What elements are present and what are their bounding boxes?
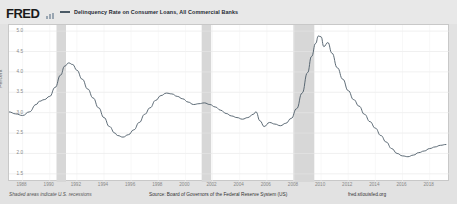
- legend-swatch: [60, 11, 70, 13]
- y-tick-label: 2.5: [17, 130, 23, 135]
- x-tick-label: 1990: [44, 182, 54, 187]
- recession-band: [293, 25, 314, 182]
- recession-band: [56, 25, 65, 182]
- x-tick-label: 2004: [234, 182, 244, 187]
- fred-url[interactable]: fred.stlouisfed.org: [348, 192, 386, 197]
- x-tick-label: 1998: [152, 182, 162, 187]
- x-tick-label: 2018: [424, 182, 434, 187]
- chart-header: FRED Delinquency Rate on Consumer Loans,…: [0, 0, 457, 24]
- x-tick-label: 2008: [288, 182, 298, 187]
- chart-svg: [9, 25, 450, 182]
- chart-legend: Delinquency Rate on Consumer Loans, All …: [60, 9, 238, 15]
- x-tick-label: 2016: [396, 182, 406, 187]
- source-note: Source: Board of Governors of the Federa…: [149, 192, 287, 197]
- legend-label: Delinquency Rate on Consumer Loans, All …: [74, 9, 238, 15]
- series-line: [9, 36, 446, 157]
- chart-plot-frame: [8, 24, 449, 181]
- x-tick-label: 2002: [206, 182, 216, 187]
- y-tick-label: 1.5: [17, 170, 23, 175]
- y-tick-label: 3.0: [17, 109, 23, 114]
- bar-chart-icon: [46, 13, 55, 19]
- y-tick-label: 2.0: [17, 150, 23, 155]
- gridlines: [9, 25, 450, 182]
- x-tick-label: 2014: [369, 182, 379, 187]
- y-tick-label: 5.0: [17, 28, 23, 33]
- y-tick-label: 3.5: [17, 89, 23, 94]
- y-axis-title: Percent: [0, 48, 3, 88]
- x-tick-label: 2010: [315, 182, 325, 187]
- x-tick-label: 2000: [179, 182, 189, 187]
- series-path: [9, 36, 446, 157]
- x-tick-label: 1994: [98, 182, 108, 187]
- x-tick-label: 2006: [261, 182, 271, 187]
- x-tick-label: 1992: [71, 182, 81, 187]
- chart-footer: Shaded areas indicate U.S. recessions So…: [0, 190, 457, 204]
- x-tick-label: 1988: [16, 182, 26, 187]
- y-tick-label: 4.5: [17, 48, 23, 53]
- fred-chart-screenshot: FRED Delinquency Rate on Consumer Loans,…: [0, 0, 457, 204]
- x-tick-label: 1996: [125, 182, 135, 187]
- x-tick-label: 2012: [342, 182, 352, 187]
- fred-logo[interactable]: FRED: [6, 6, 39, 21]
- recession-note: Shaded areas indicate U.S. recessions: [9, 192, 92, 197]
- y-tick-label: 4.0: [17, 68, 23, 73]
